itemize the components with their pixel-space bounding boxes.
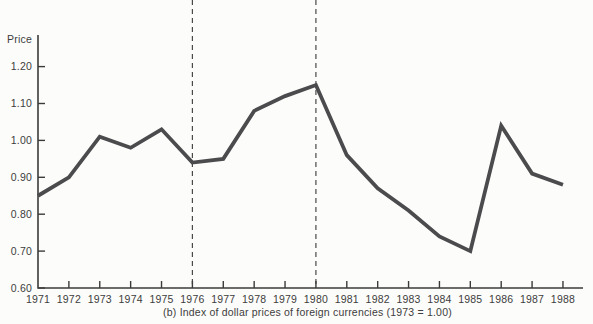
x-tick-label: 1976 xyxy=(180,293,204,305)
x-tick-label: 1983 xyxy=(396,293,420,305)
y-tick-label: 0.70 xyxy=(11,245,32,257)
chart-caption: (b) Index of dollar prices of foreign cu… xyxy=(0,306,593,318)
y-tick-label: 1.20 xyxy=(11,60,32,72)
x-tick-label: 1988 xyxy=(551,293,575,305)
y-tick-label: 1.00 xyxy=(11,134,32,146)
x-tick-label: 1985 xyxy=(458,293,482,305)
axes xyxy=(38,35,583,288)
y-axis-title: Price xyxy=(7,33,32,45)
y-tick-label: 0.90 xyxy=(11,171,32,183)
x-tick-label: 1979 xyxy=(273,293,297,305)
price-index-line xyxy=(38,85,563,251)
x-tick-label: 1980 xyxy=(304,293,328,305)
x-tick-label: 1974 xyxy=(119,293,143,305)
x-tick-label: 1975 xyxy=(149,293,173,305)
x-tick-label: 1984 xyxy=(427,293,451,305)
x-tick-label: 1981 xyxy=(335,293,359,305)
x-tick-label: 1977 xyxy=(211,293,235,305)
y-tick-label: 1.10 xyxy=(11,97,32,109)
chart-canvas: 1.201.101.000.900.800.700.60197119721973… xyxy=(0,0,593,324)
x-tick-label: 1971 xyxy=(26,293,50,305)
x-tick-label: 1978 xyxy=(242,293,266,305)
x-tick-label: 1987 xyxy=(520,293,544,305)
x-tick-label: 1972 xyxy=(57,293,81,305)
x-tick-label: 1986 xyxy=(489,293,513,305)
y-tick-label: 0.80 xyxy=(11,208,32,220)
y-tick-label: 0.60 xyxy=(11,282,32,294)
x-tick-label: 1982 xyxy=(366,293,390,305)
x-tick-label: 1973 xyxy=(88,293,112,305)
chart-figure: 1.201.101.000.900.800.700.60197119721973… xyxy=(0,0,593,324)
